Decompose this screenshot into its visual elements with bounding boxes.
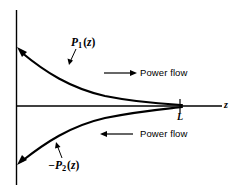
diagram-canvas <box>0 0 236 189</box>
p1-label-argument-close: ) <box>91 36 95 48</box>
figure-container: P1 (z) −P2 (z) L z Power flow Power flow <box>0 0 236 189</box>
z-axis-label: z <box>224 100 228 110</box>
p2-leader-arrow-icon <box>55 142 61 149</box>
p2-label-base: −P <box>48 159 62 171</box>
power-flow-forward-arrow-icon <box>130 70 137 76</box>
p2-arrowhead-icon <box>17 155 27 165</box>
p1-label-base: P <box>71 36 78 48</box>
p2-label-argument-close: ) <box>75 159 79 171</box>
p1-leader-arrow-icon <box>68 59 74 66</box>
power-flow-backward-arrow-icon <box>100 131 107 137</box>
p2-label: −P2 (z) <box>48 160 79 174</box>
p1-label: P1 (z) <box>71 37 95 51</box>
tick-label-L: L <box>177 112 183 122</box>
p1-curve <box>21 52 182 105</box>
power-flow-forward-label: Power flow <box>140 68 187 78</box>
power-flow-backward-label: Power flow <box>140 129 187 139</box>
